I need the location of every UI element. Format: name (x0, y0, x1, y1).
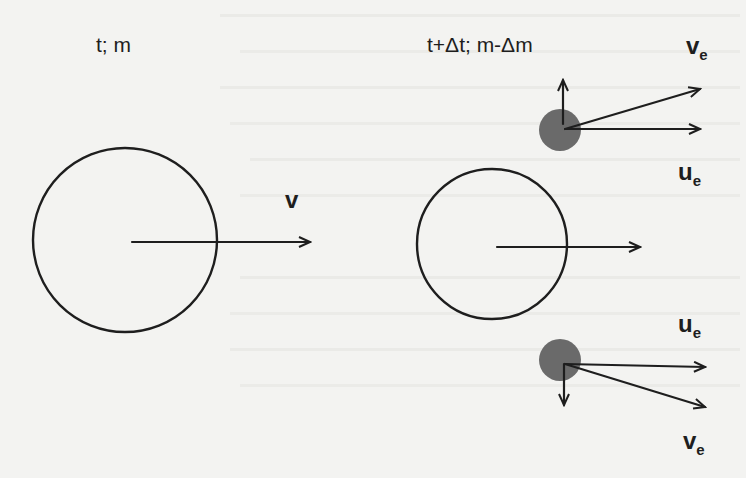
paper-bleed-texture (0, 0, 746, 478)
ejected-mass-dot-bottom (539, 339, 581, 381)
velocity-v-label: v (285, 186, 299, 213)
momentum-diagram: t; m v t+Δt; m-Δm ve ue ue ve (0, 0, 746, 478)
final-state-label: t+Δt; m-Δm (427, 33, 533, 56)
initial-state-label: t; m (96, 33, 131, 56)
